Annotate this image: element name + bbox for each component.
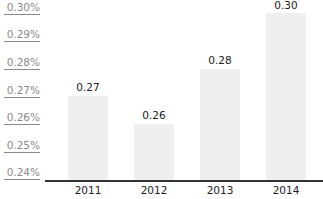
bar-2012 bbox=[134, 124, 174, 180]
bar-2011 bbox=[68, 96, 108, 180]
x-tick-label: 2012 bbox=[134, 184, 174, 196]
value-label: 0.30 bbox=[266, 0, 306, 11]
value-label: 0.28 bbox=[200, 54, 240, 66]
bar-2014 bbox=[266, 13, 306, 180]
y-tick-label: 0.24% bbox=[4, 166, 40, 180]
y-tick-label: 0.29% bbox=[4, 28, 40, 42]
y-tick-label: 0.30% bbox=[4, 1, 40, 15]
y-tick-label: 0.28% bbox=[4, 56, 40, 70]
value-label: 0.26 bbox=[134, 109, 174, 121]
value-label: 0.27 bbox=[68, 81, 108, 93]
bar-2013 bbox=[200, 69, 240, 180]
y-tick-label: 0.25% bbox=[4, 139, 40, 153]
x-tick-label: 2014 bbox=[266, 184, 306, 196]
x-tick-label: 2011 bbox=[68, 184, 108, 196]
x-axis-line bbox=[45, 180, 323, 182]
y-tick-label: 0.26% bbox=[4, 111, 40, 125]
x-tick-label: 2013 bbox=[200, 184, 240, 196]
y-tick-label: 0.27% bbox=[4, 84, 40, 98]
